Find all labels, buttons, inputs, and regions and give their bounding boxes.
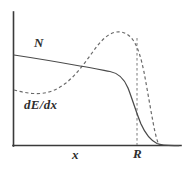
bragg-curve-figure: N dE/dx x R	[0, 0, 190, 172]
curve-label-n: N	[34, 36, 44, 49]
curve-label-dedx: dE/dx	[24, 98, 57, 111]
r-marker-label: R	[133, 147, 142, 160]
x-axis-label: x	[72, 148, 79, 161]
plot-area	[0, 0, 190, 172]
